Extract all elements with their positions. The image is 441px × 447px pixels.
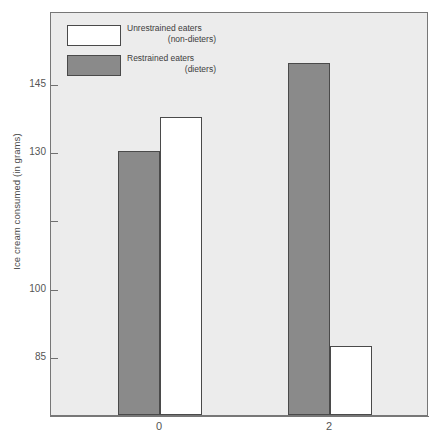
y-tick-label-145: 145 — [2, 79, 46, 89]
legend-item-unrestrained: Unrestrained eaters (non-dieters) — [67, 23, 217, 49]
y-tick-label-wrap-85: 85 — [0, 352, 46, 364]
y-tick-100 — [51, 290, 58, 291]
bar-restrained-2 — [288, 63, 330, 415]
y-axis-line — [50, 12, 51, 417]
legend-label-unrestrained: Unrestrained eaters (non-dieters) — [127, 23, 219, 45]
legend: Unrestrained eaters (non-dieters) Restra… — [67, 23, 217, 83]
legend-label-restrained: Restrained eaters (dieters) — [127, 53, 219, 75]
y-tick-unlabeled — [51, 221, 58, 222]
y-tick-label-85: 85 — [2, 352, 46, 362]
legend-item-restrained: Restrained eaters (dieters) — [67, 53, 217, 79]
bar-restrained-0 — [118, 151, 160, 415]
y-tick-label-100: 100 — [2, 284, 46, 294]
legend-swatch-unrestrained — [67, 25, 121, 46]
y-tick-145 — [51, 85, 58, 86]
y-tick-label-wrap-145: 145 — [0, 79, 46, 91]
legend-label-restrained-line2: (dieters) — [127, 64, 219, 75]
y-tick-85 — [51, 358, 58, 359]
y-tick-label-wrap-100: 100 — [0, 284, 46, 296]
y-axis-title: Ice cream consumed (in grams) — [11, 117, 22, 287]
y-tick-label-wrap-130: 130 — [0, 147, 46, 159]
x-tick-label-0: 0 — [139, 421, 179, 432]
bar-unrestrained-0 — [160, 117, 202, 415]
legend-swatch-restrained — [67, 55, 121, 76]
legend-label-unrestrained-line1: Unrestrained eaters — [127, 23, 219, 34]
chart-figure: Unrestrained eaters (non-dieters) Restra… — [0, 0, 441, 447]
plot-frame: Unrestrained eaters (non-dieters) Restra… — [50, 12, 428, 416]
legend-label-restrained-line1: Restrained eaters — [127, 53, 219, 64]
legend-label-unrestrained-line2: (non-dieters) — [127, 34, 219, 45]
x-axis-line — [50, 416, 429, 417]
y-tick-label-130: 130 — [2, 147, 46, 157]
y-tick-130 — [51, 153, 58, 154]
bar-unrestrained-2 — [330, 346, 372, 415]
x-tick-label-2: 2 — [309, 421, 349, 432]
